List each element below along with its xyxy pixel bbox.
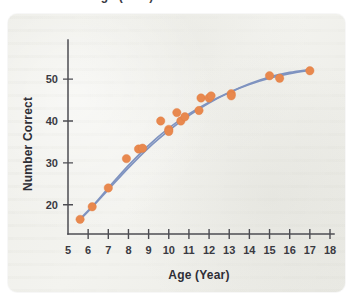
scatter-plot: 20304050 56789101112131415161718 Number … xyxy=(8,14,345,292)
data-point xyxy=(138,144,146,152)
x-tick-label: 11 xyxy=(183,244,195,256)
cropped-caption-above: Age (Year) xyxy=(0,0,353,11)
y-tick-label: 50 xyxy=(46,73,58,85)
x-tick-label: 12 xyxy=(203,244,215,256)
data-point xyxy=(157,117,165,125)
figure-container: Age (Year) 20304050 56789101112131415161… xyxy=(0,0,353,302)
x-tick-label: 16 xyxy=(284,244,296,256)
data-point xyxy=(181,113,189,121)
x-axis-title: Age (Year) xyxy=(168,268,229,282)
y-tick-label: 40 xyxy=(46,115,58,127)
data-points xyxy=(76,67,314,224)
x-tick-label: 10 xyxy=(163,244,175,256)
y-tick-label: 30 xyxy=(46,157,58,169)
x-tick-label: 6 xyxy=(85,244,91,256)
x-tick-label: 18 xyxy=(324,244,336,256)
data-point xyxy=(227,92,235,100)
data-point xyxy=(207,92,215,100)
data-point xyxy=(88,203,96,211)
y-axis-ticks: 20304050 xyxy=(46,73,73,211)
x-tick-label: 5 xyxy=(65,244,71,256)
x-tick-label: 9 xyxy=(146,244,152,256)
x-tick-label: 17 xyxy=(304,244,316,256)
x-tick-label: 13 xyxy=(223,244,235,256)
x-tick-label: 14 xyxy=(243,244,256,256)
data-point xyxy=(165,127,173,135)
x-axis-ticks: 56789101112131415161718 xyxy=(65,229,336,256)
fit-curve xyxy=(80,69,310,219)
y-tick-label: 20 xyxy=(46,199,58,211)
data-point xyxy=(76,215,84,223)
fit-curve xyxy=(80,70,310,219)
data-point xyxy=(275,74,283,82)
data-point xyxy=(173,108,181,116)
data-point xyxy=(122,154,130,162)
data-point xyxy=(306,67,314,75)
data-point xyxy=(104,184,112,192)
data-point xyxy=(265,72,273,80)
fitted-curves xyxy=(80,69,310,219)
y-axis-title: Number Correct xyxy=(21,97,35,191)
cropped-caption-text: Age (Year) xyxy=(92,0,153,3)
x-tick-label: 15 xyxy=(263,244,275,256)
x-tick-label: 7 xyxy=(105,244,111,256)
x-tick-label: 8 xyxy=(125,244,131,256)
data-point xyxy=(195,106,203,114)
data-point xyxy=(197,94,205,102)
chart-card: 20304050 56789101112131415161718 Number … xyxy=(8,14,345,292)
